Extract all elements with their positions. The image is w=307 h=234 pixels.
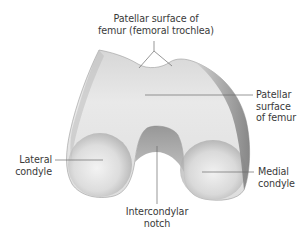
lateral-condyle-shape: [68, 133, 132, 197]
label-patellar-surface-trochlea: Patellar surface of femur (femoral troch…: [86, 13, 226, 36]
label-lateral-condyle: Lateral condyle: [4, 154, 52, 177]
label-intercondylar-notch: Intercondylar notch: [117, 206, 197, 229]
leader-patellar-top-right: [154, 51, 172, 66]
leader-patellar-top-left: [139, 51, 154, 68]
label-patellar-surface-right: Patellar surface of femur: [256, 89, 307, 124]
femur-diagram: Patellar surface of femur (femoral troch…: [0, 0, 307, 234]
medial-condyle-shape: [180, 140, 246, 200]
label-medial-condyle: Medial condyle: [258, 166, 306, 189]
